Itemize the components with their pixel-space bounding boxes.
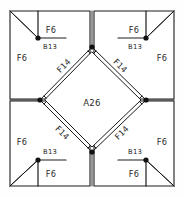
node-b13-bottom-left <box>35 157 40 162</box>
patch-label-f6-bottom-right-lower: F6 <box>129 169 139 179</box>
node-diamond-left <box>37 97 42 102</box>
node-diamond-right <box>143 97 148 102</box>
patch-label-f6-top-left-left: F6 <box>17 53 27 63</box>
patch-label-b13-top-right: B13 <box>128 43 142 51</box>
patch-label-f6-top-right-upper: F6 <box>129 25 139 35</box>
node-b13-top-right <box>143 35 148 40</box>
node-b13-bottom-right <box>143 157 148 162</box>
patch-label-f6-top-left-upper: F6 <box>46 25 56 35</box>
patch-label-f6-top-right-right: F6 <box>157 53 167 63</box>
patch-label-f6-bottom-left-lower: F6 <box>46 169 56 179</box>
quilt-block-diagram: A26 F14 F14 F14 F14 B13 B13 B13 B13 F6 F… <box>0 0 184 197</box>
patch-label-f6-bottom-right-right: F6 <box>157 137 167 147</box>
patch-label-b13-bottom-left: B13 <box>43 148 57 156</box>
patch-label-b13-bottom-right: B13 <box>128 148 142 156</box>
quilt-block-canvas: A26 F14 F14 F14 F14 B13 B13 B13 B13 F6 F… <box>0 0 184 197</box>
patch-label-b13-top-left: B13 <box>43 43 57 51</box>
node-diamond-bottom <box>89 149 94 154</box>
node-b13-top-left <box>35 35 40 40</box>
patch-label-center-a26: A26 <box>83 98 100 108</box>
node-diamond-top <box>89 44 94 49</box>
patch-label-f6-bottom-left-left: F6 <box>17 137 27 147</box>
